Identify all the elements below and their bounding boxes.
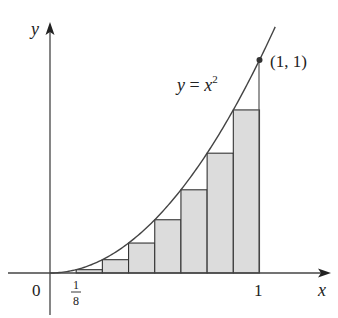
- point-one-one: [257, 57, 263, 63]
- point-label: (1, 1): [270, 52, 307, 71]
- function-label-exp: 2: [212, 73, 218, 85]
- riemann-rectangle: [181, 190, 207, 273]
- x-one-label: 1: [254, 281, 263, 300]
- riemann-sum-diagram: (1, 1) y = x2 y x 0 1 1 8: [0, 0, 338, 318]
- fraction-denominator: 8: [73, 294, 79, 308]
- function-label-y: y: [175, 75, 185, 95]
- origin-label: 0: [32, 281, 41, 300]
- riemann-rectangle: [129, 243, 155, 273]
- y-axis-label: y: [29, 19, 39, 39]
- x-axis-label: x: [317, 280, 326, 300]
- function-label-x: x: [203, 75, 212, 95]
- riemann-rectangle: [155, 220, 181, 273]
- function-label-eq: =: [185, 75, 204, 95]
- function-label: y = x2: [175, 73, 218, 95]
- riemann-rectangle: [207, 153, 233, 273]
- fraction-numerator: 1: [73, 278, 79, 292]
- riemann-rectangle: [233, 110, 259, 273]
- riemann-rectangles: [76, 110, 259, 273]
- riemann-rectangle: [102, 260, 128, 273]
